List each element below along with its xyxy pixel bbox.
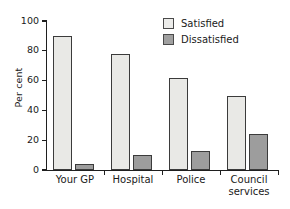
y-tick-label: 40 xyxy=(27,104,39,115)
legend-item-dissatisfied: Dissatisfied xyxy=(163,32,239,46)
y-tick-label: 80 xyxy=(27,44,39,55)
bar-satisfied-1 xyxy=(111,54,130,170)
legend-item-satisfied: Satisfied xyxy=(163,16,239,30)
bar-dissatisfied-2 xyxy=(191,151,210,170)
bar-dissatisfied-0 xyxy=(75,164,94,170)
legend-label-dissatisfied: Dissatisfied xyxy=(181,34,239,45)
plot-area xyxy=(46,21,278,170)
x-tick-label: Hospital xyxy=(104,174,162,186)
y-tick-label: 60 xyxy=(27,74,39,85)
bar-satisfied-2 xyxy=(169,78,188,170)
y-axis-title: Per cent xyxy=(13,48,24,128)
bar-satisfied-0 xyxy=(53,36,72,170)
bar-satisfied-3 xyxy=(227,96,246,171)
legend-swatch-satisfied xyxy=(163,18,174,29)
y-tick-label: 20 xyxy=(27,134,39,145)
bar-dissatisfied-3 xyxy=(249,134,268,170)
y-tick-label: 0 xyxy=(33,164,39,175)
x-tick-label: Your GP xyxy=(46,174,104,186)
y-tick-label: 100 xyxy=(21,15,39,26)
x-tick-label: Council services xyxy=(220,174,278,198)
bar-chart: Per cent 020406080100 Your GPHospitalPol… xyxy=(0,0,290,209)
legend-label-satisfied: Satisfied xyxy=(181,18,224,29)
bar-dissatisfied-1 xyxy=(133,155,152,170)
x-tick-label: Police xyxy=(162,174,220,186)
x-tick-mark xyxy=(278,170,279,175)
legend-swatch-dissatisfied xyxy=(163,34,174,45)
chart-legend: Satisfied Dissatisfied xyxy=(163,16,239,48)
